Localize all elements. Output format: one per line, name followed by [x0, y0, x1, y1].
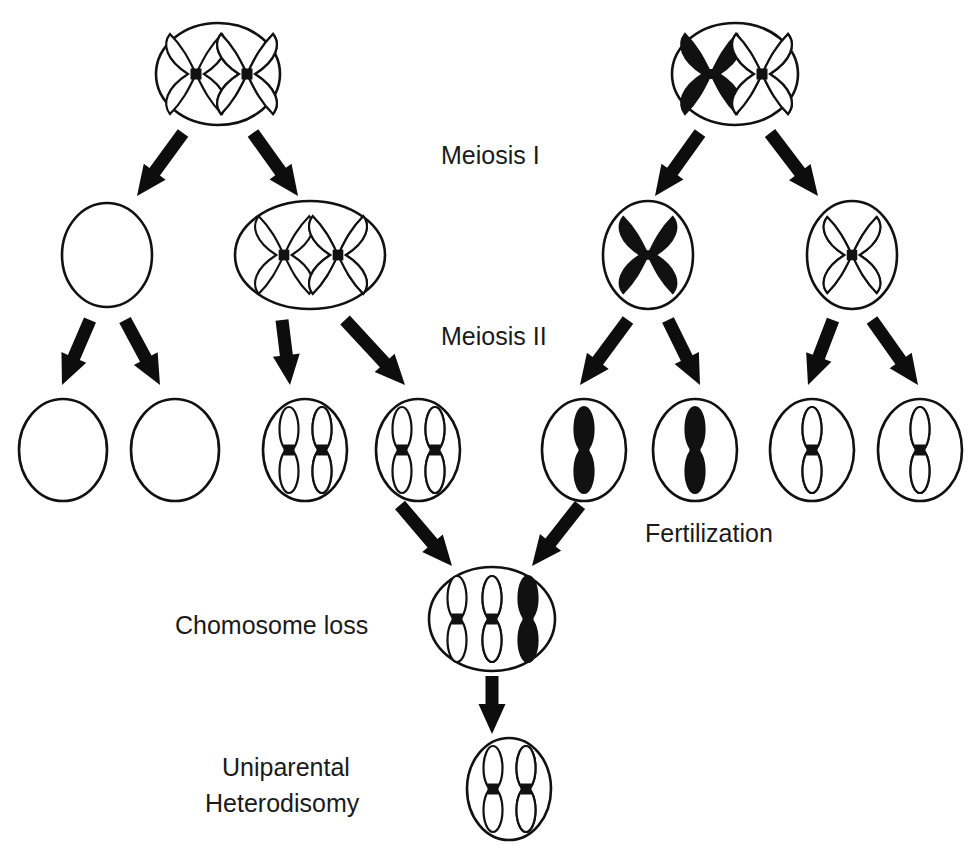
arrow-solid-left	[569, 312, 639, 393]
arrow-loss	[479, 676, 506, 734]
cell-paternal-mi-solid	[603, 201, 693, 309]
arrow-hatched-left	[795, 315, 845, 390]
cell-paternal-germ-cell	[672, 23, 802, 131]
cell-membrane	[62, 203, 152, 307]
cell-maternal-germ-cell	[156, 23, 287, 131]
arrow-mi-disomic-right	[335, 311, 415, 394]
cell-maternal-mi-empty	[62, 203, 152, 307]
arrow-hatched-right	[861, 312, 929, 393]
cell-trisomic-zygote	[429, 567, 555, 671]
cell-membrane	[19, 399, 107, 501]
cell-gamete-empty-1	[19, 399, 107, 501]
cell-membrane	[131, 399, 219, 501]
cell-sperm-hatched-1	[770, 399, 854, 502]
label-chromosome-loss: Chomosome loss	[175, 611, 368, 639]
cell-membrane	[263, 399, 347, 501]
label-uniparental-line1: Uniparental	[222, 753, 350, 781]
arrow-fuse-sperm	[521, 497, 590, 575]
label-fertilization: Fertilization	[645, 519, 773, 547]
cell-membrane	[376, 399, 460, 501]
cell-paternal-mi-hatched	[807, 201, 897, 309]
cell-sperm-solid-1	[542, 399, 626, 501]
arrow-maternal-right	[242, 125, 309, 204]
arrow-mi-empty-right	[113, 314, 172, 392]
arrow-paternal-left	[644, 125, 711, 204]
arrow-paternal-right	[759, 125, 828, 204]
cell-gamete-empty-2	[131, 399, 219, 501]
arrow-solid-right	[656, 314, 712, 391]
cell-gamete-disomic-1	[263, 399, 347, 502]
cell-maternal-mi-disomic	[235, 201, 385, 310]
cell-sperm-solid-2	[653, 399, 737, 501]
arrow-fuse-egg	[390, 496, 463, 575]
cell-gamete-disomic-2	[376, 399, 460, 502]
cell-disomic-rescue-cell	[467, 738, 551, 841]
arrow-maternal-left	[126, 125, 194, 204]
cell-sperm-hatched-2	[878, 399, 962, 502]
label-meiosis-2: Meiosis II	[441, 322, 547, 350]
uniparental-heterodisomy-diagram: Meiosis IMeiosis IIFertilizationChomosom…	[0, 0, 975, 852]
arrow-mi-disomic-left	[269, 318, 304, 386]
label-meiosis-1: Meiosis I	[441, 141, 540, 169]
label-uniparental-line2: Heterodisomy	[205, 789, 360, 817]
diagram-canvas: Meiosis IMeiosis IIFertilizationChomosom…	[0, 0, 975, 852]
arrow-mi-empty-left	[50, 315, 103, 391]
cell-membrane	[467, 738, 551, 840]
